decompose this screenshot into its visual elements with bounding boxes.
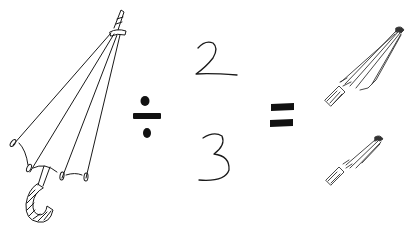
closed-umbrella-small-icon	[326, 136, 383, 185]
closed-umbrella-large-icon	[325, 27, 404, 106]
fraction-denominator-3	[199, 134, 229, 180]
divide-sign-icon	[133, 96, 161, 138]
open-umbrella-icon	[9, 10, 126, 222]
fraction-numerator-2	[196, 42, 237, 75]
umbrella-division-diagram	[0, 0, 413, 233]
equals-sign-icon	[270, 103, 294, 127]
